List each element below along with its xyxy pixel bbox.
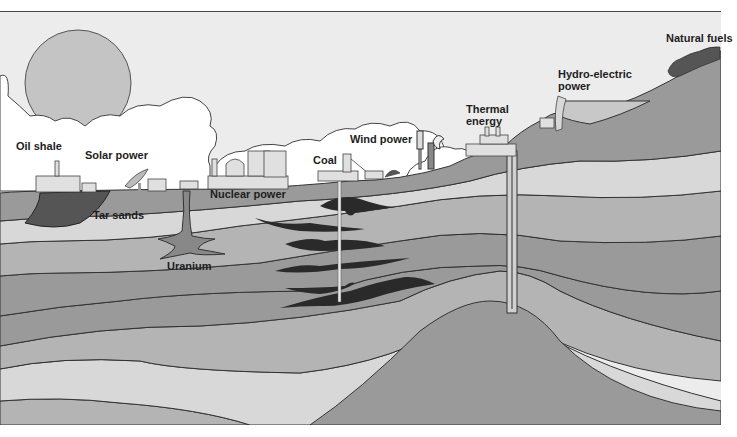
label-thermal: Thermal: [466, 103, 509, 115]
label-oil-shale: Oil shale: [16, 140, 62, 152]
label-nuclear-power: Nuclear power: [210, 188, 286, 200]
label-tar-sands: Tar sands: [93, 209, 144, 221]
label-uranium: Uranium: [167, 260, 212, 272]
coal-shaft: [338, 176, 341, 302]
label-natural-fuels: Natural fuels: [666, 32, 733, 44]
label-thermal-energy: energy: [466, 115, 502, 127]
label-solar-power: Solar power: [85, 149, 148, 161]
label-hydro-power: power: [558, 80, 590, 92]
label-hydro-electric: Hydro-electric: [558, 68, 632, 80]
label-wind-power: Wind power: [350, 133, 412, 145]
label-coal: Coal: [313, 154, 337, 166]
